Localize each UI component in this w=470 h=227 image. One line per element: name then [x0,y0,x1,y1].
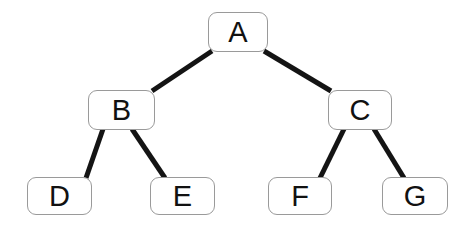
tree-node-a[interactable]: A [208,12,268,52]
tree-edge-a-c [264,51,331,91]
tree-node-label: F [291,182,309,211]
tree-node-label: D [49,182,70,211]
tree-edge-b-d [86,129,103,178]
tree-node-label: C [350,96,371,125]
tree-edge-b-e [132,129,165,178]
tree-edge-a-b [152,51,212,91]
tree-diagram: A B C D E F G [0,0,470,227]
tree-node-label: A [228,18,247,47]
tree-node-label: G [404,182,427,211]
tree-node-f[interactable]: F [268,177,332,215]
tree-node-label: B [112,96,131,125]
tree-node-g[interactable]: G [382,177,448,215]
tree-node-d[interactable]: D [27,177,92,215]
tree-edge-c-g [374,129,404,178]
tree-node-b[interactable]: B [88,90,155,130]
tree-node-e[interactable]: E [150,177,215,215]
tree-edge-c-f [320,129,344,178]
tree-node-c[interactable]: C [328,90,392,130]
tree-node-label: E [173,182,192,211]
